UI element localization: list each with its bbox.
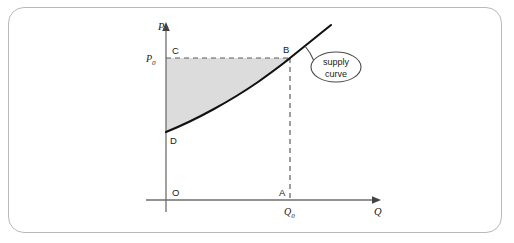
q0-label-subscript: 0 <box>291 212 295 220</box>
shaded-region <box>166 58 290 132</box>
callout-label-line2: curve <box>325 69 347 79</box>
q0-label: Q0 <box>284 206 295 220</box>
origin-label: O <box>172 187 179 198</box>
point-c-label: C <box>172 45 179 56</box>
vertical-axis-label: P <box>157 21 165 32</box>
point-d-label: D <box>170 135 177 146</box>
horizontal-axis-arrow-icon <box>372 196 381 204</box>
p0-label: P0 <box>145 53 156 67</box>
supply-curve-diagram: supply curve P Q O P0 Q0 C B D A <box>0 0 514 243</box>
horizontal-axis-label: Q <box>374 206 382 217</box>
callout-label-line1: supply <box>323 57 350 67</box>
callout-leader-line <box>305 46 314 61</box>
p0-label-subscript: 0 <box>152 59 156 67</box>
point-b-label: B <box>283 44 289 55</box>
figure-root: supply curve P Q O P0 Q0 C B D A <box>0 0 514 243</box>
p0-label-letter: P <box>145 53 152 64</box>
point-a-label: A <box>279 187 286 198</box>
